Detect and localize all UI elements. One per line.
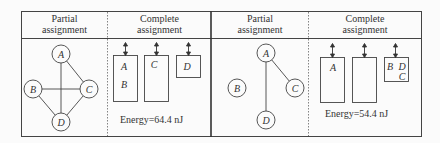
node-label-c: C	[86, 84, 93, 95]
node-label-d: D	[261, 115, 270, 126]
header-complete-2: Complete assignment	[309, 13, 421, 35]
node-label-b: B	[234, 83, 240, 94]
slot-label-d: D	[182, 61, 191, 72]
header-complete-1: Complete assignment	[108, 13, 211, 35]
node-label-b: B	[30, 84, 36, 95]
header-partial-2: Partial assignment	[212, 13, 308, 35]
slot-label-b: B	[121, 79, 127, 90]
bus-arrows-1	[124, 43, 191, 56]
energy-label-1: Energy=64.4 nJ	[120, 114, 183, 125]
node-label-a: A	[57, 49, 65, 60]
slot-label-a: A	[120, 61, 128, 72]
energy-label-2: Energy=54.4 nJ	[325, 108, 388, 119]
slot-label-a: A	[329, 62, 337, 73]
slot-label-c: C	[399, 71, 406, 82]
bus-arrows-2	[331, 44, 398, 58]
node-label-c: C	[292, 83, 299, 94]
slot-label-b: B	[387, 61, 393, 72]
node-label-a: A	[262, 48, 270, 59]
slot-2	[353, 58, 377, 103]
slot-label-c: C	[151, 59, 158, 70]
node-label-d: D	[56, 117, 65, 128]
header-partial-1: Partial assignment	[22, 13, 107, 35]
